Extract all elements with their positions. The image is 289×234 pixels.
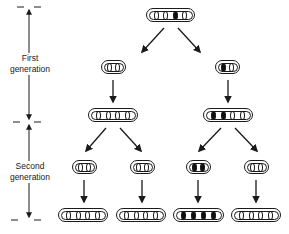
chromosome-g2-c-dup bbox=[173, 208, 224, 222]
unlabeled-chromatid-icon bbox=[268, 211, 273, 220]
first-generation-label-line2: generation bbox=[6, 64, 54, 75]
second-generation-label-line1: Second bbox=[6, 161, 54, 172]
unlabeled-chromatid-icon bbox=[78, 163, 83, 172]
unlabeled-chromatid-icon bbox=[153, 211, 158, 220]
unlabeled-chromatid-icon bbox=[66, 211, 71, 220]
unlabeled-chromatid-icon bbox=[229, 63, 234, 72]
second-generation-label: Second generation bbox=[6, 161, 54, 183]
chromosome-g2-c bbox=[186, 160, 211, 174]
arrow-root-to-g1-right bbox=[178, 28, 200, 52]
arrow-root-to-g1-left bbox=[142, 28, 164, 52]
unlabeled-chromatid-icon bbox=[250, 163, 255, 172]
chromosome-root bbox=[146, 8, 195, 22]
chromosome-g2-d-dup bbox=[231, 208, 281, 222]
labeled-chromatid-icon bbox=[221, 63, 226, 72]
unlabeled-chromatid-icon bbox=[85, 211, 90, 220]
unlabeled-chromatid-icon bbox=[115, 111, 120, 120]
labeled-chromatid-icon bbox=[173, 11, 178, 20]
unlabeled-chromatid-icon bbox=[106, 111, 111, 120]
unlabeled-chromatid-icon bbox=[258, 211, 263, 220]
unlabeled-chromatid-icon bbox=[124, 211, 129, 220]
labeled-chromatid-icon bbox=[192, 163, 197, 172]
chromosome-g2-b bbox=[130, 160, 155, 174]
unlabeled-chromatid-icon bbox=[136, 163, 141, 172]
labeled-chromatid-icon bbox=[181, 211, 186, 220]
labeled-chromatid-icon bbox=[200, 163, 205, 172]
unlabeled-chromatid-icon bbox=[240, 111, 245, 120]
unlabeled-chromatid-icon bbox=[163, 11, 168, 20]
arrow-g1-right-dup-to-g2-d bbox=[235, 128, 257, 151]
arrow-g1-right-dup-to-g2-c bbox=[199, 128, 221, 151]
unlabeled-chromatid-icon bbox=[86, 163, 91, 172]
unlabeled-chromatid-icon bbox=[143, 211, 148, 220]
chromosome-g1-right bbox=[215, 60, 240, 74]
unlabeled-chromatid-icon bbox=[249, 211, 254, 220]
unlabeled-chromatid-icon bbox=[95, 211, 100, 220]
unlabeled-chromatid-icon bbox=[239, 211, 244, 220]
unlabeled-chromatid-icon bbox=[182, 11, 187, 20]
unlabeled-chromatid-icon bbox=[115, 63, 120, 72]
first-generation-label-line1: First bbox=[6, 53, 54, 64]
unlabeled-chromatid-icon bbox=[258, 163, 263, 172]
chromosome-g2-d bbox=[244, 160, 269, 174]
chromosome-g2-a bbox=[72, 160, 97, 174]
labeled-chromatid-icon bbox=[221, 111, 226, 120]
unlabeled-chromatid-icon bbox=[154, 11, 159, 20]
unlabeled-chromatid-icon bbox=[134, 211, 139, 220]
generation-scale bbox=[11, 7, 41, 220]
labeled-chromatid-icon bbox=[211, 211, 216, 220]
chromosome-g1-left bbox=[101, 60, 126, 74]
labeled-chromatid-icon bbox=[201, 211, 206, 220]
unlabeled-chromatid-icon bbox=[144, 163, 149, 172]
chromosome-g1-right-dup bbox=[203, 108, 253, 122]
chromosome-g2-b-dup bbox=[116, 208, 166, 222]
arrow-g1-left-dup-to-g2-a bbox=[86, 128, 106, 151]
chromosome-g2-a-dup bbox=[58, 208, 108, 222]
unlabeled-chromatid-icon bbox=[125, 111, 130, 120]
unlabeled-chromatid-icon bbox=[96, 111, 101, 120]
first-generation-label: First generation bbox=[6, 53, 54, 75]
labeled-chromatid-icon bbox=[191, 211, 196, 220]
chromosome-g1-left-dup bbox=[88, 108, 138, 122]
labeled-chromatid-icon bbox=[211, 111, 216, 120]
unlabeled-chromatid-icon bbox=[230, 111, 235, 120]
unlabeled-chromatid-icon bbox=[107, 63, 112, 72]
second-generation-label-line2: generation bbox=[6, 172, 54, 183]
unlabeled-chromatid-icon bbox=[76, 211, 81, 220]
arrow-g1-left-dup-to-g2-b bbox=[120, 128, 141, 151]
